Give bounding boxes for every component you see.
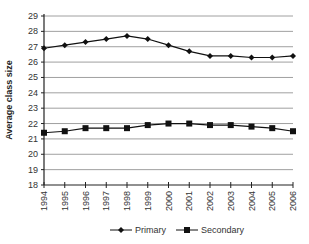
data-point — [228, 122, 234, 128]
x-tick-label: 2006 — [288, 191, 298, 211]
gridlines — [44, 16, 293, 170]
x-tick-label: 2002 — [205, 191, 215, 211]
x-tick-label: 2004 — [247, 191, 257, 211]
series-lines — [41, 33, 296, 136]
line-chart: 181920212223242526272829 199419951996199… — [0, 0, 309, 244]
data-point — [103, 36, 109, 42]
x-tick-label: 2001 — [184, 191, 194, 211]
square-marker-icon — [176, 226, 198, 234]
x-tick-label: 1994 — [39, 191, 49, 211]
data-point — [166, 121, 172, 127]
x-tick-label: 1997 — [101, 191, 111, 211]
data-point — [166, 42, 172, 48]
y-axis: 181920212223242526272829 — [28, 11, 44, 190]
y-tick-label: 24 — [28, 88, 38, 98]
data-point — [228, 53, 234, 59]
legend-primary: Primary — [110, 225, 166, 235]
y-tick-label: 19 — [28, 165, 38, 175]
data-point — [249, 124, 255, 130]
data-point — [290, 53, 296, 59]
data-point — [207, 122, 213, 128]
data-point — [207, 53, 213, 59]
x-tick-label: 1999 — [143, 191, 153, 211]
legend-label-secondary: Secondary — [201, 225, 244, 235]
data-point — [145, 36, 151, 42]
data-point — [41, 130, 47, 136]
data-point — [124, 125, 130, 131]
y-tick-label: 27 — [28, 42, 38, 52]
data-point — [83, 125, 89, 131]
data-point — [124, 33, 130, 39]
y-tick-label: 21 — [28, 134, 38, 144]
y-axis-label: Average class size — [4, 60, 14, 140]
data-point — [83, 39, 89, 45]
data-point — [62, 128, 68, 134]
data-point — [290, 128, 296, 134]
legend: Primary Secondary — [110, 225, 244, 235]
y-tick-label: 28 — [28, 26, 38, 36]
data-point — [41, 45, 47, 51]
x-tick-label: 1998 — [122, 191, 132, 211]
x-tick-label: 2003 — [226, 191, 236, 211]
x-tick-label: 2000 — [164, 191, 174, 211]
diamond-marker-icon — [110, 226, 132, 234]
data-point — [186, 48, 192, 54]
x-tick-label: 2005 — [267, 191, 277, 211]
y-tick-label: 20 — [28, 149, 38, 159]
data-point — [103, 125, 109, 131]
legend-secondary: Secondary — [176, 225, 244, 235]
x-tick-label: 1996 — [81, 191, 91, 211]
data-point — [62, 42, 68, 48]
y-tick-label: 18 — [28, 180, 38, 190]
y-tick-label: 22 — [28, 119, 38, 129]
y-tick-label: 29 — [28, 11, 38, 21]
data-point — [145, 122, 151, 128]
legend-label-primary: Primary — [135, 225, 166, 235]
data-point — [249, 54, 255, 60]
data-point — [186, 121, 192, 127]
data-point — [269, 54, 275, 60]
y-tick-label: 26 — [28, 57, 38, 67]
data-point — [269, 125, 275, 131]
y-tick-label: 23 — [28, 103, 38, 113]
y-tick-label: 25 — [28, 72, 38, 82]
x-axis: 1994199519961997199819992000200120022003… — [39, 182, 298, 211]
x-tick-label: 1995 — [60, 191, 70, 211]
